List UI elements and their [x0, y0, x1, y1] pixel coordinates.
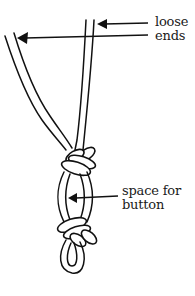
arrowhead-icon	[97, 19, 107, 29]
left-strand	[5, 33, 72, 150]
loose-ends-arrow-lower	[17, 32, 148, 44]
right-strand	[75, 20, 94, 150]
knot-illustration	[0, 0, 195, 296]
loose-ends-arrow-upper	[97, 19, 148, 29]
knot-diagram: loose ends space for button	[0, 0, 195, 296]
bottom-loop	[61, 240, 85, 273]
loose-ends-label-line1: loose	[155, 15, 188, 29]
arrowhead-icon	[17, 32, 28, 44]
space-for-button-label: space for button	[122, 184, 181, 212]
arrowhead-icon	[68, 193, 77, 203]
loose-ends-label-line2: ends	[155, 29, 188, 43]
space-for-button-label-line1: space for	[122, 184, 181, 198]
space-for-button-label-line2: button	[122, 198, 181, 212]
loose-ends-label: loose ends	[155, 15, 188, 43]
